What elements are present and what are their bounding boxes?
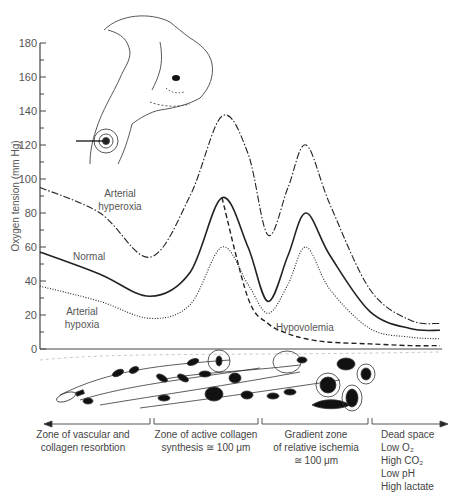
label-arterial-hyperoxia-2: hyperoxia <box>98 201 142 212</box>
label-arterial-hyperoxia-1: Arterial <box>104 188 136 199</box>
zone-gradient-relative-ischemia: Gradient zone of relative ischemia ≅ 100… <box>262 428 370 467</box>
y-tick-label: 40 <box>25 275 37 287</box>
y-tick-label: 160 <box>19 71 37 83</box>
dead-space-item: Low pH <box>381 467 434 480</box>
y-tick-label: 140 <box>19 105 37 117</box>
dead-space-item: Low O₂ <box>381 441 434 454</box>
zone-active-collagen-synthesis: Zone of active collagen synthesis ≅ 100 … <box>150 428 262 454</box>
dead-space-description: Dead space Low O₂ High CO₂ Low pH High l… <box>381 428 434 493</box>
zone-vascular-collagen-resorbtion: Zone of vascular and collagen resorbtion <box>18 428 148 454</box>
y-tick-label: 120 <box>19 139 37 151</box>
y-tick-label: 180 <box>19 37 37 49</box>
zone-label-line: of relative ischemia <box>262 441 370 454</box>
y-axis-tick-labels: 020406080100120140160180 <box>19 37 37 355</box>
y-tick-label: 20 <box>25 309 37 321</box>
right-arrow-icon <box>440 421 448 427</box>
zone-label-line: synthesis ≅ 100 μm <box>150 441 262 454</box>
zone-label-line: Zone of active collagen <box>150 428 262 441</box>
wound-tissue-histology-strip <box>40 350 440 411</box>
zone-label-line: collagen resorbtion <box>18 441 148 454</box>
label-arterial-hypoxia-2: hypoxia <box>65 319 100 330</box>
y-tick-label: 80 <box>25 207 37 219</box>
label-normal: Normal <box>73 251 105 262</box>
curve-normal <box>40 197 440 330</box>
dead-space-item: High CO₂ <box>381 454 434 467</box>
label-arterial-hypoxia-1: Arterial <box>66 306 98 317</box>
zone-label-line: Gradient zone <box>262 428 370 441</box>
zone-axis <box>44 418 448 427</box>
oxygen-tension-diagram: 020406080100120140160180 Oxygen tension … <box>0 0 459 493</box>
y-tick-label: 0 <box>31 343 37 355</box>
y-tick-label: 60 <box>25 241 37 253</box>
y-axis-title: Oxygen tension (mm Hg) <box>10 140 21 251</box>
rabbit-ear-chamber-illustration <box>76 16 213 164</box>
oxygen-tension-curves <box>40 115 440 346</box>
zone-label-line: ≅ 100 μm <box>262 454 370 467</box>
curve-arterial-hyperoxia <box>40 115 440 324</box>
dead-space-title: Dead space <box>381 428 434 441</box>
y-axis-ticks <box>40 43 46 349</box>
left-arrow-icon <box>44 421 52 427</box>
dead-space-item: High lactate <box>381 480 434 493</box>
rabbit-eye <box>172 75 180 81</box>
y-tick-label: 100 <box>19 173 37 185</box>
zone-label-line: Zone of vascular and <box>18 428 148 441</box>
label-hypovolemia: Hypovolemia <box>276 322 334 333</box>
